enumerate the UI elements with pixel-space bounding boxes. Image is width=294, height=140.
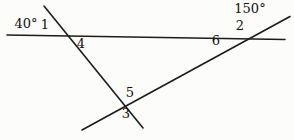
angle-label-5: 5 — [126, 85, 134, 100]
angle-label-3: 3 — [122, 106, 130, 121]
angles-transversal-diagram: 40° 1 4 150° 2 6 5 3 — [0, 0, 294, 140]
angle-label-40deg: 40° — [14, 16, 37, 31]
geometry-figure: 40° 1 4 150° 2 6 5 3 — [0, 0, 294, 140]
angle-label-2: 2 — [236, 18, 244, 33]
angle-label-4: 4 — [77, 36, 85, 51]
angle-label-150deg: 150° — [234, 1, 265, 16]
angle-label-6: 6 — [212, 33, 220, 48]
angle-label-1: 1 — [41, 17, 49, 32]
